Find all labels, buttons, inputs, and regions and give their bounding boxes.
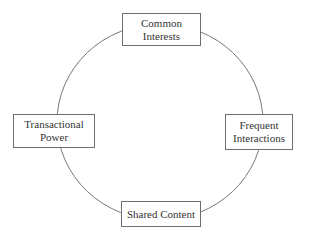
cycle-diagram: Common Interests Frequent Interactions S… — [0, 0, 318, 239]
node-common-interests: Common Interests — [122, 13, 201, 46]
node-label-line: Transactional — [24, 118, 83, 131]
node-label-line: Power — [40, 131, 68, 144]
node-shared-content: Shared Content — [121, 201, 201, 227]
node-frequent-interactions: Frequent Interactions — [225, 114, 293, 150]
node-label-line: Interests — [143, 30, 180, 43]
node-label-line: Frequent — [239, 119, 278, 132]
node-transactional-power: Transactional Power — [13, 114, 95, 148]
node-label-line: Interactions — [233, 132, 285, 145]
node-label-line: Shared Content — [127, 208, 195, 221]
node-label-line: Common — [141, 17, 182, 30]
